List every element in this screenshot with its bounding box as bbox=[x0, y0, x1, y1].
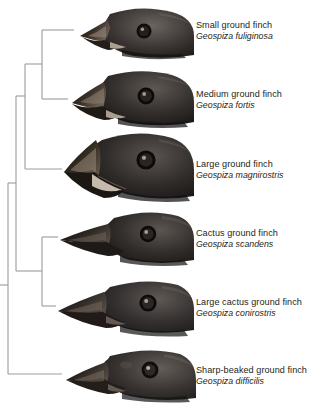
photo-small-ground-finch bbox=[74, 6, 194, 62]
photo-medium-ground-finch bbox=[68, 70, 194, 130]
label-small-ground-finch: Small ground finch Geospiza fuliginosa bbox=[196, 20, 324, 42]
scientific-name: Geospiza scandens bbox=[196, 239, 324, 249]
finch-phylogeny-figure: Small ground finch Geospiza fuliginosa bbox=[0, 0, 324, 408]
common-name: Small ground finch bbox=[196, 20, 324, 31]
common-name: Medium ground finch bbox=[196, 89, 324, 100]
label-sharp-beaked-ground-finch: Sharp-beaked ground finch Geospiza diffi… bbox=[196, 365, 324, 387]
photo-large-ground-finch bbox=[62, 132, 194, 204]
scientific-name: Geospiza fuliginosa bbox=[196, 31, 324, 41]
common-name: Sharp-beaked ground finch bbox=[196, 365, 324, 376]
scientific-name: Geospiza magnirostris bbox=[196, 170, 324, 180]
photo-cactus-ground-finch bbox=[58, 210, 194, 268]
common-name: Cactus ground finch bbox=[196, 228, 324, 239]
photo-large-cactus-ground-finch bbox=[56, 280, 194, 338]
label-cactus-ground-finch: Cactus ground finch Geospiza scandens bbox=[196, 228, 324, 250]
common-name: Large cactus ground finch bbox=[196, 297, 324, 308]
photo-sharp-beaked-ground-finch bbox=[62, 348, 196, 404]
common-name: Large ground finch bbox=[196, 159, 324, 170]
label-large-ground-finch: Large ground finch Geospiza magnirostris bbox=[196, 159, 324, 181]
scientific-name: Geospiza conirostris bbox=[196, 308, 324, 318]
scientific-name: Geospiza difficilis bbox=[196, 376, 324, 386]
label-large-cactus-ground-finch: Large cactus ground finch Geospiza conir… bbox=[196, 297, 324, 319]
scientific-name: Geospiza fortis bbox=[196, 100, 324, 110]
label-medium-ground-finch: Medium ground finch Geospiza fortis bbox=[196, 89, 324, 111]
